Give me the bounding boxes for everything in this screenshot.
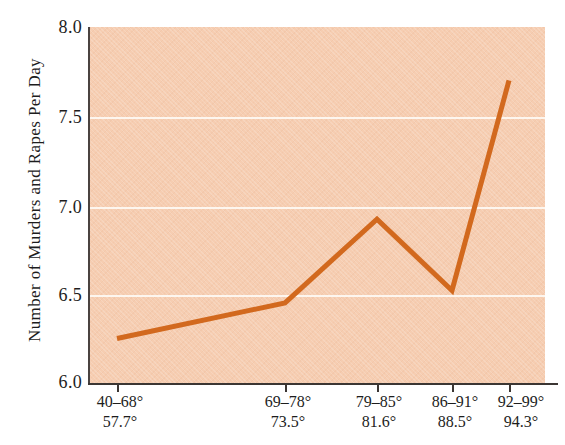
- plot-texture: [90, 27, 545, 383]
- gridline-6.5: [90, 295, 545, 297]
- x-tick-mean-3: 81.6°: [356, 412, 402, 432]
- plot-area: [88, 27, 545, 383]
- x-tick-label-2: 69–78° 73.5°: [265, 392, 311, 433]
- x-tick-mean-4: 88.5°: [432, 412, 478, 432]
- x-tick-mark-2: [285, 383, 287, 392]
- x-tick-mark-5: [509, 383, 511, 392]
- x-tick-range-5: 92–99°: [498, 392, 544, 412]
- x-tick-label-3: 79–85° 81.6°: [356, 392, 402, 433]
- x-tick-range-2: 69–78°: [265, 392, 311, 412]
- x-tick-mark-3: [377, 383, 379, 392]
- x-tick-mark-4: [452, 383, 454, 392]
- x-tick-range-3: 79–85°: [356, 392, 402, 412]
- y-axis-title: Number of Murders and Rapes Per Day: [25, 20, 45, 380]
- x-tick-range-1: 40–68°: [97, 392, 143, 412]
- line-chart: 8.0 7.5 7.0 6.5 6.0 Number of Murders an…: [0, 0, 565, 445]
- x-tick-label-1: 40–68° 57.7°: [97, 392, 143, 433]
- x-tick-mean-5: 94.3°: [498, 412, 544, 432]
- x-tick-label-4: 86–91° 88.5°: [432, 392, 478, 433]
- x-tick-mean-1: 57.7°: [97, 412, 143, 432]
- gridline-7.5: [90, 117, 545, 119]
- gridline-7.0: [90, 207, 545, 209]
- x-tick-range-4: 86–91°: [432, 392, 478, 412]
- x-tick-label-5: 92–99° 94.3°: [498, 392, 544, 433]
- x-tick-mark-1: [117, 383, 119, 392]
- x-axis-line: [88, 383, 558, 385]
- x-tick-mean-2: 73.5°: [265, 412, 311, 432]
